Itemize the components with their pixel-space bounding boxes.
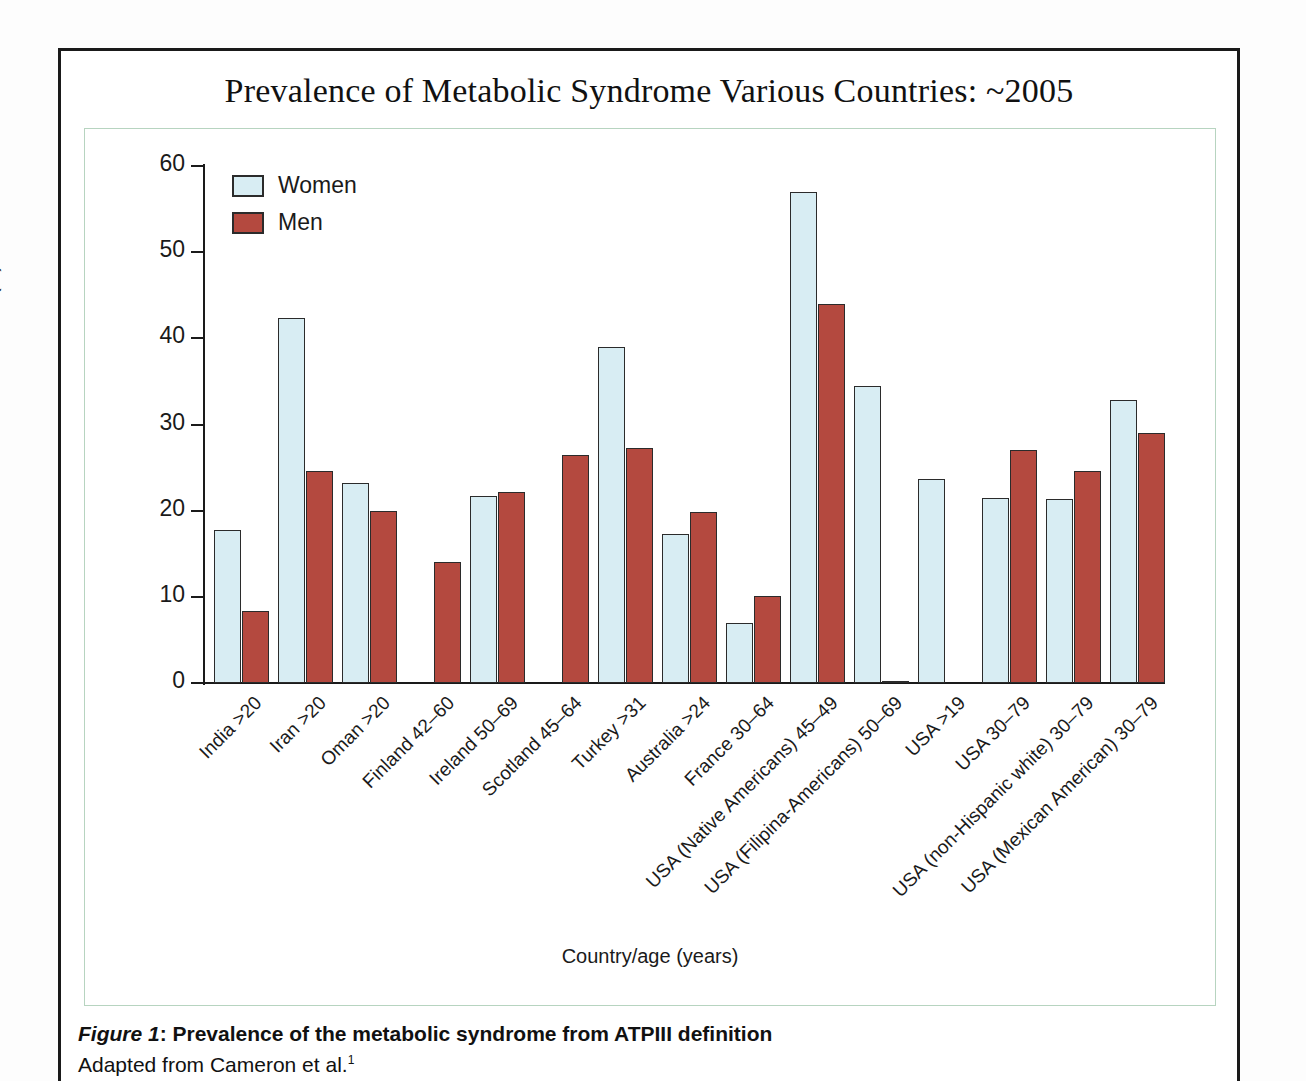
caption-line-source: Adapted from Cameron et al.1 bbox=[78, 1053, 1238, 1077]
bar-men[interactable] bbox=[818, 304, 845, 683]
bar-men[interactable] bbox=[434, 562, 461, 683]
y-axis-tick bbox=[191, 424, 204, 426]
bar-group bbox=[726, 166, 780, 683]
bar-women[interactable] bbox=[790, 192, 817, 683]
bar-group bbox=[918, 166, 972, 683]
bar-group bbox=[1110, 166, 1164, 683]
y-axis-tick-label: 20 bbox=[125, 495, 185, 522]
bar-women[interactable] bbox=[278, 318, 305, 683]
bar-women[interactable] bbox=[982, 498, 1009, 683]
caption-source-text: Adapted from Cameron et al. bbox=[78, 1053, 348, 1076]
bar-men[interactable] bbox=[690, 512, 717, 683]
bar-women[interactable] bbox=[342, 483, 369, 683]
y-axis-tick-label: 10 bbox=[125, 581, 185, 608]
legend-swatch-women-icon bbox=[232, 175, 264, 197]
x-axis-title: Country/age (years) bbox=[84, 945, 1216, 968]
y-axis-tick bbox=[191, 251, 204, 253]
bar-group bbox=[598, 166, 652, 683]
legend-swatch-men-icon bbox=[232, 212, 264, 234]
y-axis-tick-label: 30 bbox=[125, 409, 185, 436]
bar-women[interactable] bbox=[1046, 499, 1073, 683]
y-axis-tick bbox=[191, 682, 204, 684]
bar-women[interactable] bbox=[662, 534, 689, 683]
bar-group bbox=[662, 166, 716, 683]
y-axis-tick-label: 60 bbox=[125, 150, 185, 177]
bar-men[interactable] bbox=[626, 448, 653, 683]
caption-line-primary: Figure 1: Prevalence of the metabolic sy… bbox=[78, 1022, 1238, 1046]
y-axis-tick-label: 0 bbox=[125, 667, 185, 694]
bar-women[interactable] bbox=[470, 496, 497, 683]
figure-page: Prevalence of Metabolic Syndrome Various… bbox=[0, 0, 1306, 1081]
bar-women[interactable] bbox=[598, 347, 625, 683]
legend-label-women: Women bbox=[278, 172, 357, 199]
bar-group bbox=[1046, 166, 1100, 683]
bar-women[interactable] bbox=[854, 386, 881, 683]
y-axis-tick-label: 50 bbox=[125, 236, 185, 263]
y-axis-tick bbox=[191, 165, 204, 167]
y-axis-tick bbox=[191, 596, 204, 598]
bar-group bbox=[854, 166, 908, 683]
chart-legend: Women Men bbox=[232, 172, 357, 246]
bar-women[interactable] bbox=[214, 530, 241, 683]
bar-men[interactable] bbox=[242, 611, 269, 683]
y-axis-tick bbox=[191, 510, 204, 512]
bar-men[interactable] bbox=[306, 471, 333, 683]
bar-men[interactable] bbox=[1138, 433, 1165, 683]
bar-men[interactable] bbox=[1010, 450, 1037, 684]
bar-men[interactable] bbox=[1074, 471, 1101, 683]
caption-figure-text: : Prevalence of the metabolic syndrome f… bbox=[160, 1022, 773, 1045]
page-title: Prevalence of Metabolic Syndrome Various… bbox=[58, 72, 1240, 110]
bar-men[interactable] bbox=[498, 492, 525, 683]
caption-source-reference: 1 bbox=[348, 1053, 355, 1067]
legend-label-men: Men bbox=[278, 209, 323, 236]
bar-women[interactable] bbox=[1110, 400, 1137, 683]
bar-men[interactable] bbox=[754, 596, 781, 683]
bar-women[interactable] bbox=[726, 623, 753, 683]
bar-women[interactable] bbox=[918, 479, 945, 683]
bar-men[interactable] bbox=[882, 681, 909, 683]
bar-group bbox=[982, 166, 1036, 683]
y-axis-tick-label: 40 bbox=[125, 322, 185, 349]
y-axis-tick bbox=[191, 337, 204, 339]
bar-men[interactable] bbox=[562, 455, 589, 683]
caption-figure-number: Figure 1 bbox=[78, 1022, 160, 1045]
bar-group bbox=[406, 166, 460, 683]
figure-caption: Figure 1: Prevalence of the metabolic sy… bbox=[78, 1022, 1238, 1077]
bar-group bbox=[790, 166, 844, 683]
legend-item-men: Men bbox=[232, 209, 357, 236]
bar-group bbox=[470, 166, 524, 683]
bar-group bbox=[534, 166, 588, 683]
legend-item-women: Women bbox=[232, 172, 357, 199]
y-axis-title: Prevalence (%) bbox=[0, 265, 2, 395]
bar-men[interactable] bbox=[370, 511, 397, 683]
